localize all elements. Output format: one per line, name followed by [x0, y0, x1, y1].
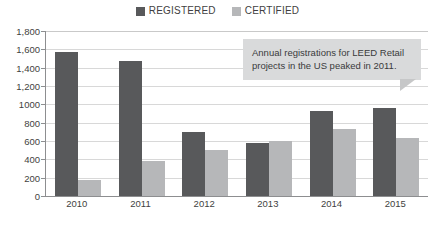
y-axis-tick-mark [41, 123, 45, 124]
bar-certified-2015 [396, 138, 419, 196]
y-axis-tick-label: 600 [0, 137, 40, 146]
x-axis-tick-label: 2014 [300, 199, 364, 209]
y-axis-tick-label: 200 [0, 173, 40, 182]
y-axis-tick-mark [41, 178, 45, 179]
legend-item-certified: CERTIFIED [232, 6, 299, 16]
legend-swatch-registered [136, 7, 145, 16]
chart-legend: REGISTERED CERTIFIED [0, 6, 435, 16]
bar-registered-2013 [246, 143, 269, 196]
bar-certified-2014 [333, 129, 356, 196]
bar-group [46, 31, 110, 196]
y-axis-tick-label: 1,800 [0, 27, 40, 36]
y-axis-tick-mark [41, 141, 45, 142]
y-axis-tick-mark [41, 159, 45, 160]
bar-certified-2011 [142, 161, 165, 196]
y-axis-tick-mark [41, 49, 45, 50]
y-axis-tick-mark [41, 68, 45, 69]
bar-registered-2010 [55, 52, 78, 196]
callout-annotation: Annual registrations for LEED Retail pro… [243, 39, 421, 80]
bar-registered-2011 [119, 61, 142, 196]
x-axis-tick-label: 2015 [363, 199, 427, 209]
y-axis-tick-mark [41, 86, 45, 87]
y-axis-tick-label: 1,200 [0, 82, 40, 91]
x-axis-tick-label: 2013 [236, 199, 300, 209]
bar-registered-2014 [310, 111, 333, 196]
bar-group [110, 31, 174, 196]
bar-certified-2012 [205, 150, 228, 196]
y-axis-tick-mark [41, 104, 45, 105]
x-axis-tick-label: 2011 [109, 199, 173, 209]
x-axis-tick-label: 2012 [172, 199, 236, 209]
bar-registered-2015 [373, 108, 396, 196]
y-axis-tick-label: 400 [0, 155, 40, 164]
callout-tail-icon [400, 79, 416, 91]
y-axis-tick-label: 1,400 [0, 63, 40, 72]
legend-label-certified: CERTIFIED [245, 6, 299, 16]
bar-group [173, 31, 237, 196]
y-axis-tick-mark [41, 31, 45, 32]
bar-certified-2010 [78, 180, 101, 197]
legend-swatch-certified [232, 7, 241, 16]
bar-chart: REGISTERED CERTIFIED 1,8001,6001,4001,20… [0, 0, 435, 240]
bar-registered-2012 [182, 132, 205, 196]
callout-text: Annual registrations for LEED Retail pro… [252, 46, 412, 72]
callout-box: Annual registrations for LEED Retail pro… [243, 39, 421, 80]
legend-item-registered: REGISTERED [136, 6, 216, 16]
bar-certified-2013 [269, 141, 292, 196]
y-axis-tick-label: 1000 [0, 100, 40, 109]
x-axis-ticks: 201020112012201320142015 [45, 199, 427, 209]
y-axis-tick-label: 800 [0, 118, 40, 127]
y-axis-tick-label: 1,600 [0, 45, 40, 54]
y-axis-tick-label: 0 [0, 192, 40, 201]
y-axis-tick-mark [41, 196, 45, 197]
legend-label-registered: REGISTERED [149, 6, 216, 16]
x-axis-tick-label: 2010 [45, 199, 109, 209]
